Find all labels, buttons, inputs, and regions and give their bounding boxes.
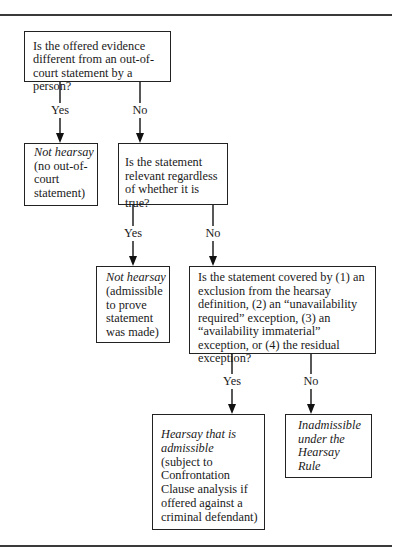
question-text: Is the statement covered by (1) an exclu… [198,271,371,366]
result-not-hearsay-no-statement: Not hearsay (no out-of-court statement) [24,143,98,206]
question-text: Is the offered evidence different from a… [33,40,162,94]
question-out-of-court-statement: Is the offered evidence different from a… [24,31,171,82]
edge-label-q2-no: No [204,227,221,240]
edge-label-q3-yes: Yes [222,375,242,388]
result-heading: Not hearsay [106,271,167,285]
result-detail: (admissible to prove statement was made) [106,285,167,340]
edge-label-q1-yes: Yes [50,104,70,117]
result-inadmissible: Inadmissible under the Hearsay Rule [285,414,372,478]
question-exclusion-or-exception: Is the statement covered by (1) an exclu… [189,266,376,354]
result-not-hearsay-statement-made: Not hearsay (admissible to prove stateme… [96,266,170,343]
edge-label-q3-no: No [302,375,319,388]
result-heading: Inadmissible under the Hearsay Rule [298,419,358,473]
result-hearsay-admissible: Hearsay that is admissible (subject to C… [152,414,265,530]
result-detail: (no out-of-court statement) [34,160,90,201]
result-heading: Not hearsay [34,146,97,160]
result-heading: Hearsay that is admissible [161,428,241,456]
question-text: Is the statement relevant regardless of … [125,156,223,210]
edge-label-q2-yes: Yes [123,227,143,240]
edge-label-q1-no: No [131,104,148,117]
question-relevant-regardless-of-truth: Is the statement relevant regardless of … [118,143,228,205]
result-detail: (subject to Confrontation Clause analysi… [161,456,262,525]
